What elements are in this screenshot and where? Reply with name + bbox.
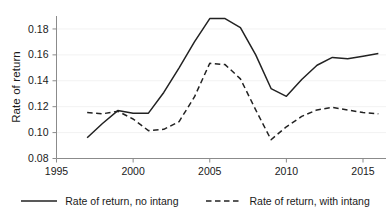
x-tick-label: 2015 bbox=[351, 165, 375, 177]
series-line-2 bbox=[87, 63, 378, 139]
y-tick-label: 0.14 bbox=[28, 74, 49, 86]
x-tick-label: 2005 bbox=[198, 165, 222, 177]
y-tick-label: 0.08 bbox=[28, 152, 49, 164]
series-line-1 bbox=[87, 19, 378, 138]
chart-container: 0.080.100.120.140.160.18 199520002005201… bbox=[0, 0, 390, 216]
y-tick-label: 0.16 bbox=[28, 48, 49, 60]
data-series-group bbox=[87, 19, 378, 140]
legend-swatch-dashed-icon bbox=[205, 196, 243, 206]
gridlines bbox=[57, 29, 387, 159]
y-axis-ticks: 0.080.100.120.140.160.18 bbox=[28, 23, 56, 165]
legend-item-with-intang: Rate of return, with intang bbox=[205, 195, 370, 207]
legend-swatch-solid-icon bbox=[20, 196, 58, 206]
legend-label-no-intang: Rate of return, no intang bbox=[65, 195, 178, 207]
x-tick-label: 1995 bbox=[45, 165, 69, 177]
chart-legend: Rate of return, no intang Rate of return… bbox=[0, 190, 390, 212]
line-chart-plot: 0.080.100.120.140.160.18 199520002005201… bbox=[0, 0, 390, 216]
y-tick-label: 0.10 bbox=[28, 126, 49, 138]
y-axis-title-text: Rate of return bbox=[10, 51, 22, 123]
x-tick-label: 2010 bbox=[275, 165, 299, 177]
x-tick-label: 2000 bbox=[121, 165, 145, 177]
legend-item-no-intang: Rate of return, no intang bbox=[20, 195, 178, 207]
y-tick-label: 0.12 bbox=[28, 100, 49, 112]
legend-label-with-intang: Rate of return, with intang bbox=[250, 195, 370, 207]
y-tick-label: 0.18 bbox=[28, 23, 49, 35]
x-axis-ticks: 19952000200520102015 bbox=[45, 159, 375, 177]
y-axis-title: Rate of return bbox=[7, 22, 25, 152]
